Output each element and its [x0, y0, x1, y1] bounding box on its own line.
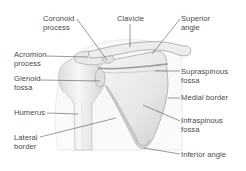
label-supraspinous-fossa: Supraspinous fossa: [181, 68, 228, 85]
label-medial-border: Medial border: [181, 94, 228, 103]
label-lateral-border: Lateral border: [14, 134, 38, 151]
label-humerus: Humerus: [14, 109, 45, 118]
label-infraspinous-fossa: Infraspinous fossa: [181, 117, 223, 134]
scapula-diagram: Coronoid process Clavicle Superior angle…: [0, 0, 246, 171]
label-superior-angle: Superior angle: [181, 15, 210, 32]
label-coronoid-process: Coronoid process: [43, 15, 74, 32]
label-glenoid-fossa: Glenoid fossa: [14, 75, 41, 92]
label-clavicle: Clavicle: [117, 15, 144, 24]
label-inferior-angle: Inferior angle: [181, 151, 226, 160]
label-acromion-process: Acromion process: [14, 51, 46, 68]
